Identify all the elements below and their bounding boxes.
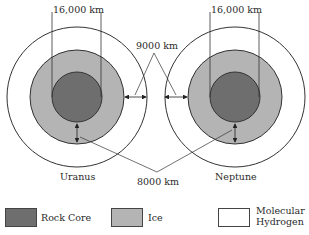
uranus-rock-core [52, 72, 102, 122]
legend-swatch-rock-core [5, 208, 37, 227]
neptune-core-width-label: 16,000 km [211, 5, 262, 15]
uranus-core-width-label: 16,000 km [53, 5, 104, 15]
legend-label-molecular-line1: Molecular [256, 206, 305, 216]
legend-label-rock-core: Rock Core [41, 213, 91, 223]
neptune-name-label: Neptune [215, 172, 257, 182]
neptune-planet [165, 12, 305, 167]
legend-label-molecular-line2: Hydrogen [256, 217, 304, 227]
ice-thickness-label: 8000 km [137, 177, 179, 187]
uranus-name-label: Uranus [60, 172, 95, 182]
planet-diagram [0, 0, 309, 235]
legend-swatch-molecular-hydrogen [218, 208, 250, 227]
legend-swatch-ice [111, 208, 143, 227]
hydrogen-thickness-label: 9000 km [136, 41, 178, 51]
legend-label-ice: Ice [148, 213, 163, 223]
neptune-rock-core [210, 72, 260, 122]
uranus-planet [7, 12, 147, 167]
